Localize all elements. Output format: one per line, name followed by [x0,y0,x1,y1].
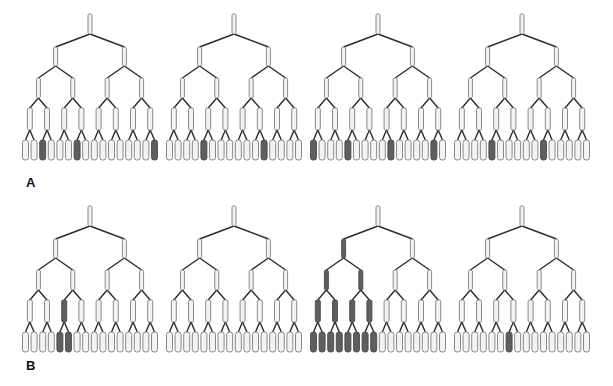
tree-edge [30,98,39,108]
tree-node [537,270,541,290]
leaf-node [23,332,29,352]
leaf-node [244,140,250,160]
tree-edge [107,66,124,78]
tree-node [240,300,245,322]
tree-node [257,108,262,130]
leaf-node [515,332,521,352]
tree-node [223,108,228,130]
tree-a4 [455,14,590,160]
leaf-node [455,332,461,352]
leaf-node [463,140,469,160]
tree-edge [352,130,356,140]
tree-edge [470,290,479,300]
leaf-node [549,140,555,160]
tree-edge [277,98,286,108]
tree-edge [582,322,586,332]
tree-edge [582,130,586,140]
tree-node [503,270,507,290]
tree-node [528,300,533,322]
tree-node [292,300,297,322]
leaf-node-shaded [345,332,351,352]
tree-edge [268,66,285,78]
tree-edge [77,322,81,332]
leaf-node [175,332,181,352]
tree-node [436,300,441,322]
tree-edge [387,98,396,108]
leaf-node [584,140,590,160]
tree-node [189,300,194,322]
tree-edge [99,322,103,332]
leaf-node [498,332,504,352]
tree-edge [73,98,82,108]
tree-node [240,108,245,130]
tree-edge [352,290,361,300]
tree-edge [526,322,530,332]
tree-edge [116,322,120,332]
tree-node [198,239,202,258]
tree-edge [318,322,322,332]
tree-node [27,300,32,322]
tree-edge [488,226,522,239]
tree-edge [99,130,103,140]
tree-node [180,270,184,290]
tree-edge [200,34,234,47]
tree-node [428,78,432,98]
tree-node [468,270,472,290]
tree-edge [170,130,174,140]
tree-edge [133,130,137,140]
tree-edge [488,258,505,270]
panel-a [23,14,590,160]
tree-edge [99,290,108,300]
leaf-node [472,140,478,160]
tree-node [54,47,58,66]
leaf-node [287,332,293,352]
tree-b2 [167,206,302,352]
tree-edge [548,322,552,332]
tree-edge [174,130,178,140]
tree-edge [146,130,150,140]
leaf-node [253,332,259,352]
leaf-node [192,140,198,160]
tree-edge [286,290,295,300]
leaf-node [397,332,403,352]
tree-node [554,239,558,258]
leaf-node-shaded [388,140,394,160]
tree-edge [133,98,142,108]
leaf-node [227,332,233,352]
tree-edge [64,290,73,300]
tree-edge [505,290,514,300]
tree-edge [578,322,582,332]
tree-edge [488,34,522,47]
leaf-node [117,332,123,352]
leaf-node [218,332,224,352]
leaf-node [431,332,437,352]
tree-node [459,108,464,130]
tree-edge [458,322,462,332]
leaf-node [66,140,72,160]
tree-edge [382,322,386,332]
tree-node [215,78,219,98]
tree-node-shaded [333,300,338,322]
tree-node [36,270,40,290]
leaf-node [91,332,97,352]
tree-edge [479,130,483,140]
leaf-node [143,332,149,352]
tree-node [232,206,236,226]
tree-a2 [167,14,302,160]
tree-node [180,78,184,98]
leaf-node [558,140,564,160]
tree-edge [243,98,252,108]
leaf-node [532,140,538,160]
tree-edge [531,322,535,332]
tree-edge [90,34,124,47]
tree-edge [344,258,361,270]
tree-edge [77,130,81,140]
tree-edge [522,226,556,239]
panel-b [23,206,590,352]
tree-edge [462,130,466,140]
tree-edge [522,34,556,47]
leaf-node [91,140,97,160]
tree-edge [395,290,404,300]
tree-edge [221,130,225,140]
tree-node [266,47,270,66]
